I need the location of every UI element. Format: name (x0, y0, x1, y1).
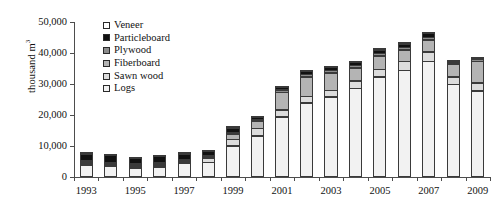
legend-item-sawn-wood[interactable]: Sawn wood (103, 71, 170, 82)
bar-2006 (398, 43, 411, 177)
x-axis-tick-label: 1995 (125, 186, 146, 197)
x-axis-tick (123, 177, 124, 181)
legend-item-label: Fiberboard (114, 58, 160, 69)
bar-segment-logs (104, 166, 117, 177)
y-axis-tick-label: 30,000 (38, 79, 67, 90)
bar-segment-logs (226, 146, 239, 177)
x-axis-tick (221, 177, 222, 181)
x-axis-tick (319, 177, 320, 181)
x-axis-tick (490, 177, 491, 181)
legend-item-logs[interactable]: Logs (103, 83, 170, 94)
legend-item-plywood[interactable]: Plywood (103, 45, 170, 56)
bar-2007 (422, 33, 435, 177)
x-axis-line (74, 177, 490, 178)
bar-segment-logs (349, 88, 362, 177)
y-axis-tick-label: 50,000 (38, 17, 67, 28)
bar-2004 (349, 61, 362, 177)
x-axis-tick-label: 2005 (369, 186, 390, 197)
chart-legend: VeneerParticleboardPlywoodFiberboardSawn… (103, 20, 170, 94)
bar-segment-logs (275, 117, 288, 177)
bar-segment-fiberboard (471, 61, 484, 83)
y-axis-tick-label: 10,000 (38, 141, 67, 152)
bar-segment-fiberboard (349, 68, 362, 82)
legend-item-particleboard[interactable]: Particleboard (103, 33, 170, 44)
y-axis-tick (70, 115, 74, 116)
bar-segment-fiberboard (422, 40, 435, 53)
bar-chart: thousand m3 010,00020,00030,00040,00050,… (0, 0, 493, 218)
x-axis-tick (245, 177, 246, 181)
x-axis-tick-label: 2009 (467, 186, 488, 197)
bar-1996 (153, 155, 166, 177)
legend-item-veneer[interactable]: Veneer (103, 20, 170, 31)
y-axis-tick (70, 84, 74, 85)
x-axis-tick-label: 2003 (320, 186, 341, 197)
x-axis-tick (368, 177, 369, 181)
x-axis-tick (196, 177, 197, 181)
x-axis-tick (343, 177, 344, 181)
legend-item-label: Plywood (114, 45, 151, 56)
y-axis-title: thousand m3 (24, 6, 37, 126)
legend-item-fiberboard[interactable]: Fiberboard (103, 58, 170, 69)
bar-segment-logs (178, 163, 191, 177)
bar-segment-fiberboard (398, 50, 411, 62)
x-axis-tick (147, 177, 148, 181)
x-axis-tick (172, 177, 173, 181)
bar-2008 (447, 60, 460, 177)
x-axis-tick (392, 177, 393, 181)
bar-segment-logs (300, 103, 313, 177)
x-axis-tick (466, 177, 467, 181)
y-axis-tick-label: 0 (62, 172, 67, 183)
x-axis-tick (270, 177, 271, 181)
bar-segment-logs (251, 136, 264, 177)
bar-segment-logs (153, 167, 166, 177)
x-axis-tick (98, 177, 99, 181)
x-axis-tick (417, 177, 418, 181)
bar-2001 (275, 87, 288, 177)
bar-1995 (129, 157, 142, 177)
bar-1994 (104, 155, 117, 177)
bar-segment-fiberboard (275, 92, 288, 110)
legend-item-label: Veneer (114, 20, 143, 31)
legend-swatch-fiberboard-icon (103, 60, 110, 67)
legend-item-label: Particleboard (114, 33, 170, 44)
bar-segment-logs (202, 162, 215, 177)
bar-segment-fiberboard (373, 56, 386, 70)
bar-segment-logs (373, 77, 386, 177)
legend-swatch-particleboard-icon (103, 34, 110, 41)
y-axis-tick-label: 20,000 (38, 110, 67, 121)
bar-2003 (324, 66, 337, 177)
x-axis-tick-label: 1993 (76, 186, 97, 197)
y-axis-tick (70, 22, 74, 23)
bar-segment-logs (324, 97, 337, 177)
x-axis-tick-label: 1997 (174, 186, 195, 197)
bar-segment-logs (129, 168, 142, 177)
legend-swatch-sawn-wood-icon (103, 73, 110, 80)
bar-segment-logs (422, 61, 435, 177)
x-axis-tick (294, 177, 295, 181)
bar-1999 (226, 127, 239, 177)
legend-item-label: Sawn wood (114, 71, 163, 82)
bar-2009 (471, 57, 484, 177)
bar-1997 (178, 153, 191, 177)
bar-segment-fiberboard (447, 64, 460, 77)
bar-segment-fiberboard (300, 77, 313, 97)
legend-swatch-logs-icon (103, 85, 110, 92)
bar-2005 (373, 49, 386, 177)
bar-segment-logs (471, 91, 484, 177)
y-axis-tick (70, 53, 74, 54)
legend-item-label: Logs (114, 83, 135, 94)
x-axis-tick-label: 1999 (223, 186, 244, 197)
bar-segment-logs (398, 70, 411, 177)
y-axis-tick-label: 40,000 (38, 48, 67, 59)
bar-segment-fiberboard (324, 73, 337, 91)
legend-swatch-veneer-icon (103, 22, 110, 29)
bar-segment-logs (447, 84, 460, 177)
bar-2000 (251, 116, 264, 177)
x-axis-tick (441, 177, 442, 181)
y-axis-title-text: thousand m3 (25, 40, 36, 93)
bar-2002 (300, 70, 313, 177)
x-axis-tick-label: 2007 (418, 186, 439, 197)
y-axis-tick (70, 146, 74, 147)
x-axis-tick-label: 2001 (272, 186, 293, 197)
bar-1993 (80, 153, 93, 177)
